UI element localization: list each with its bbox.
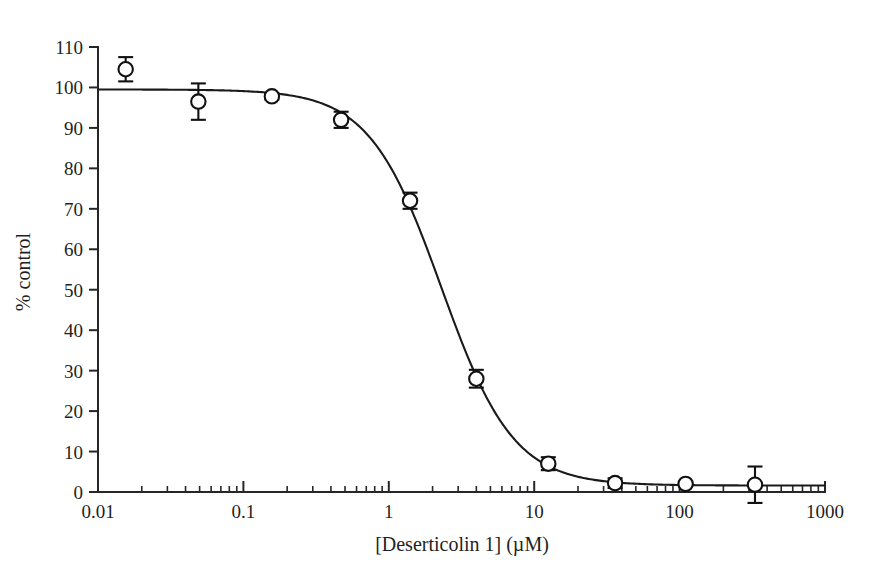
y-tick-label: 110	[55, 37, 83, 58]
marker-open-circle	[748, 478, 762, 492]
data-point	[118, 57, 133, 81]
x-tick-label: 0.1	[232, 501, 256, 522]
fit-curve	[98, 90, 825, 486]
data-point	[747, 467, 762, 503]
y-tick-label: 20	[64, 401, 83, 422]
y-tick-label: 40	[64, 320, 83, 341]
marker-open-circle	[118, 62, 132, 76]
y-tick-label: 90	[64, 118, 83, 139]
y-tick-label: 10	[64, 442, 83, 463]
y-tick-label: 0	[74, 482, 84, 503]
data-point	[469, 370, 484, 388]
y-axis-title: % control	[12, 232, 34, 311]
tick-labels: 01020304050607080901001100.010.111010010…	[55, 37, 845, 522]
data-point	[264, 89, 279, 103]
marker-open-circle	[678, 477, 692, 491]
y-tick-label: 80	[64, 158, 83, 179]
sigmoid-fit-line	[98, 90, 825, 486]
y-tick-label: 70	[64, 199, 83, 220]
figure-panel: 01020304050607080901001100.010.111010010…	[0, 0, 875, 581]
marker-open-circle	[608, 476, 622, 490]
marker-open-circle	[265, 89, 279, 103]
marker-open-circle	[541, 456, 555, 470]
x-tick-label: 10	[525, 501, 544, 522]
data-point	[541, 456, 556, 470]
data-points	[118, 57, 762, 503]
x-tick-label: 1	[384, 501, 394, 522]
marker-open-circle	[334, 113, 348, 127]
x-tick-label: 1000	[806, 501, 844, 522]
data-point	[608, 476, 623, 490]
y-tick-label: 50	[64, 280, 83, 301]
x-tick-label: 0.01	[81, 501, 114, 522]
data-point	[678, 477, 692, 491]
data-point	[334, 112, 349, 128]
marker-open-circle	[403, 194, 417, 208]
data-point	[403, 193, 418, 209]
x-axis-title: [Deserticolin 1] (µM)	[375, 533, 549, 556]
marker-open-circle	[191, 94, 205, 108]
y-tick-label: 100	[55, 77, 84, 98]
marker-open-circle	[469, 372, 483, 386]
y-tick-label: 60	[64, 239, 83, 260]
x-tick-label: 100	[665, 501, 694, 522]
dose-response-chart: 01020304050607080901001100.010.111010010…	[0, 0, 875, 581]
y-tick-label: 30	[64, 361, 83, 382]
